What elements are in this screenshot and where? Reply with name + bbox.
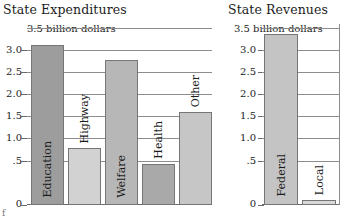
bar-health[interactable] — [142, 164, 175, 205]
bar-label-highway: Highway — [78, 94, 91, 143]
figure-root: State Expenditures 3.5 billion dollars 3… — [0, 0, 346, 218]
bar-federal[interactable]: Federal — [264, 34, 298, 205]
bar-label-federal: Federal — [275, 154, 288, 196]
page-title-expenditures: State Expenditures — [3, 2, 127, 17]
y-tick-rev-0: 0 — [234, 198, 256, 209]
tick-dash-0 — [21, 205, 27, 206]
y-tick-rev-2-5: 2.5 — [234, 66, 256, 77]
plot-area-expenditures: Education Highway Welfare Health Othe — [27, 24, 212, 205]
plot-area-revenues: Federal Local — [262, 24, 340, 205]
page-title-revenues: State Revenues — [228, 2, 328, 17]
y-tick-3-0: 3.0 — [0, 44, 22, 55]
bar-label-wrap-other: Other — [179, 75, 212, 107]
bar-education[interactable]: Education — [31, 45, 64, 205]
bar-label-other: Other — [189, 75, 202, 107]
bar-label-wrap-local: Local — [302, 165, 336, 195]
bar-label-welfare: Welfare — [115, 155, 128, 198]
bar-highway[interactable] — [68, 148, 101, 205]
bar-label-education: Education — [41, 141, 54, 198]
bar-welfare[interactable]: Welfare — [105, 60, 138, 205]
y-tick-1-5: 1.5 — [0, 110, 22, 121]
gridline-3-5 — [27, 28, 212, 29]
y-tick-rev-3-0: 3.0 — [234, 44, 256, 55]
plot-right-edge-revenues — [339, 24, 340, 205]
y-tick-2-5: 2.5 — [0, 66, 22, 77]
bar-label-wrap-health: Health — [142, 121, 175, 159]
y-tick-rev-1-5: 1.5 — [234, 110, 256, 121]
bar-label-local: Local — [313, 165, 326, 195]
chart-state-expenditures: State Expenditures 3.5 billion dollars 3… — [0, 0, 220, 218]
y-tick-rev-1-0: 1.0 — [234, 132, 256, 143]
y-tick-rev-2-0: 2.0 — [234, 88, 256, 99]
bar-label-health: Health — [152, 121, 165, 159]
y-tick-2-0: 2.0 — [0, 88, 22, 99]
y-tick-0-5: .5 — [0, 155, 22, 166]
bar-local[interactable] — [302, 200, 336, 205]
y-tick-1-0: 1.0 — [0, 132, 22, 143]
tick-dash-rev-0 — [258, 205, 264, 206]
y-tick-rev-0-5: .5 — [234, 155, 256, 166]
scan-artifact-mark: f — [2, 208, 5, 218]
bar-other[interactable] — [179, 112, 212, 205]
gridline-rev-3-5 — [262, 28, 340, 29]
bar-label-wrap-highway: Highway — [68, 94, 101, 143]
